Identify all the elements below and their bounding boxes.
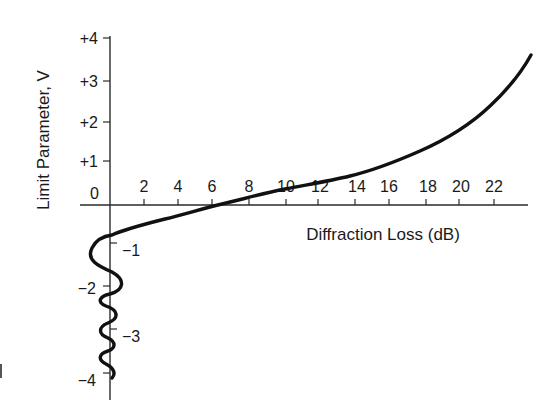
y-tick-label-zero: 0 <box>90 185 99 202</box>
x-tick-label: 20 <box>452 178 470 195</box>
x-tick-label: 14 <box>348 178 366 195</box>
y-axis-label: Limit Parameter, V <box>34 69 53 209</box>
y-tick-label: +3 <box>80 73 98 90</box>
x-tick-label: 2 <box>140 178 149 195</box>
y-tick-label: −2 <box>78 280 96 297</box>
diffraction-loss-chart: +4 +3 +2 +1 0 −1 −2 −3 −4 2 4 6 8 10 12 … <box>0 0 557 415</box>
x-tick-label: 18 <box>419 178 437 195</box>
x-ticks <box>144 199 494 205</box>
x-tick-label: 6 <box>208 178 217 195</box>
y-tick-label: −3 <box>122 328 140 345</box>
y-tick-label: +2 <box>80 114 98 131</box>
x-axis-label: Diffraction Loss (dB) <box>306 225 460 244</box>
x-tick-label: 8 <box>245 178 254 195</box>
y-tick-label: +1 <box>80 153 98 170</box>
diffraction-curve <box>90 55 531 378</box>
y-tick-label: −4 <box>78 372 96 389</box>
scan-artifact <box>0 364 2 378</box>
x-tick-label: 16 <box>380 178 398 195</box>
y-tick-label: −1 <box>122 242 140 259</box>
x-tick-label: 22 <box>485 178 503 195</box>
y-tick-labels: +4 +3 +2 +1 0 −1 −2 −3 −4 <box>78 30 141 389</box>
y-tick-label: +4 <box>80 30 98 47</box>
x-tick-label: 4 <box>174 178 183 195</box>
